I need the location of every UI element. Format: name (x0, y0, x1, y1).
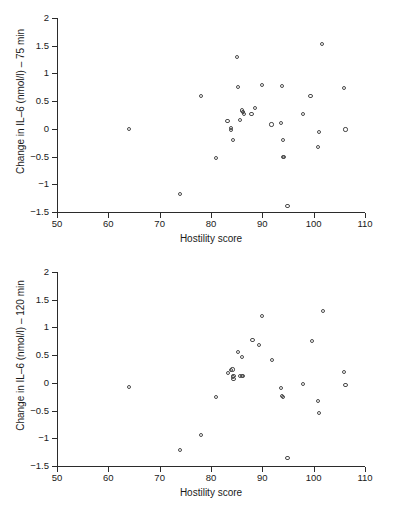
scatter-point (225, 119, 229, 123)
scatter-point (199, 94, 203, 98)
x-tick-label: 80 (191, 219, 231, 229)
x-tick-label: 90 (242, 473, 282, 483)
scatter-point (127, 385, 131, 389)
x-tick-label: 70 (140, 219, 180, 229)
scatter-point (316, 399, 320, 403)
y-tick-label: 2 (5, 267, 49, 277)
y-tick-mark (52, 327, 57, 328)
scatter-point (199, 433, 203, 437)
x-tick-mark (160, 467, 161, 472)
y-tick-mark (52, 46, 57, 47)
x-tick-mark (160, 213, 161, 218)
scatter-point (280, 84, 284, 88)
scatter-point (235, 55, 239, 59)
y-tick-mark (52, 129, 57, 130)
scatter-point (279, 121, 283, 125)
scatter-point (260, 314, 264, 318)
scatter-point (238, 118, 242, 122)
scatter-point (257, 343, 261, 347)
chart-panel-bottom: −1.5−1−0.500.511.52 5060708090100110 Cha… (0, 254, 396, 507)
scatter-point (214, 395, 218, 399)
scatter-point (250, 338, 254, 342)
scatter-point (316, 145, 320, 149)
scatter-point (285, 456, 289, 460)
scatter-point (317, 130, 321, 134)
y-tick-label: 0.5 (5, 350, 49, 360)
scatter-point (229, 128, 233, 132)
x-tick-label: 110 (345, 219, 385, 229)
x-tick-mark (262, 213, 263, 218)
scatter-point (301, 112, 305, 116)
scatter-point (285, 204, 289, 208)
scatter-point (282, 155, 286, 159)
scatter-point (343, 127, 347, 131)
y-tick-label: 0.5 (5, 96, 49, 106)
y-tick-label: −1 (5, 179, 49, 189)
x-tick-label: 50 (37, 473, 77, 483)
x-tick-mark (57, 467, 58, 472)
x-tick-mark (365, 213, 366, 218)
y-tick-label: 0 (5, 378, 49, 388)
y-tick-label: 1 (5, 322, 49, 332)
y-tick-mark (52, 101, 57, 102)
y-tick-mark (52, 184, 57, 185)
scatter-point (301, 382, 305, 386)
y-tick-mark (52, 355, 57, 356)
scatter-point (214, 156, 218, 160)
x-tick-label: 90 (242, 219, 282, 229)
plot-area-top (57, 18, 365, 212)
x-tick-mark (262, 467, 263, 472)
scatter-point (178, 448, 182, 452)
y-tick-mark (52, 411, 57, 412)
y-tick-mark (52, 18, 57, 19)
y-tick-label: 1.5 (5, 295, 49, 305)
y-tick-mark (52, 73, 57, 74)
scatter-point (178, 192, 182, 196)
x-axis-title-bottom: Hostility score (57, 487, 365, 498)
plot-area-bottom (57, 272, 365, 466)
x-tick-mark (365, 467, 366, 472)
x-tick-mark (211, 213, 212, 218)
scatter-point (240, 355, 244, 359)
scatter-point (236, 350, 240, 354)
scatter-point (342, 86, 346, 90)
x-tick-label: 70 (140, 473, 180, 483)
scatter-point (321, 309, 325, 313)
y-axis-title-top: Change in IL–6 (nmol/l) – 75 min (15, 0, 26, 207)
x-tick-mark (108, 467, 109, 472)
scatter-point (279, 386, 283, 390)
scatter-point (308, 94, 312, 98)
scatter-point (242, 112, 246, 116)
x-tick-mark (108, 213, 109, 218)
x-tick-label: 80 (191, 473, 231, 483)
y-tick-mark (52, 157, 57, 158)
scatter-point (260, 83, 264, 87)
scatter-point (310, 339, 314, 343)
scatter-point (127, 127, 131, 131)
chart-panel-top: −1.5−1−0.500.511.52 5060708090100110 Cha… (0, 0, 396, 253)
x-axis-title-top: Hostility score (57, 233, 365, 244)
scatter-point (320, 42, 324, 46)
x-tick-label: 110 (345, 473, 385, 483)
x-tick-label: 100 (294, 219, 334, 229)
figure-scatter-pair: −1.5−1−0.500.511.52 5060708090100110 Cha… (0, 0, 396, 507)
x-tick-label: 60 (88, 473, 128, 483)
scatter-point (253, 106, 257, 110)
scatter-point (281, 395, 285, 399)
y-tick-label: −0.5 (5, 152, 49, 162)
y-tick-label: −1.5 (5, 207, 49, 217)
y-tick-mark (52, 383, 57, 384)
scatter-point (249, 112, 253, 116)
y-tick-mark (52, 300, 57, 301)
scatter-point (230, 367, 234, 371)
scatter-point (241, 374, 245, 378)
x-tick-mark (314, 467, 315, 472)
y-tick-label: 2 (5, 13, 49, 23)
y-tick-label: −1.5 (5, 461, 49, 471)
scatter-point (343, 383, 347, 387)
scatter-point (342, 370, 346, 374)
scatter-point (270, 358, 274, 362)
y-tick-label: −0.5 (5, 406, 49, 416)
scatter-point (281, 138, 285, 142)
scatter-point (231, 374, 235, 378)
